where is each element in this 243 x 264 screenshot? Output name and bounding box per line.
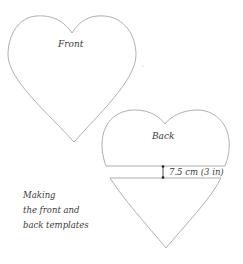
gap-dimension-marker <box>162 165 165 179</box>
front-label: Front <box>58 40 83 49</box>
back-label: Back <box>152 132 174 141</box>
caption: Making the front and back templates <box>23 188 89 233</box>
front-heart-outline <box>8 16 136 142</box>
caption-line: Making <box>23 188 89 203</box>
speck <box>142 65 143 66</box>
caption-line: the front and <box>23 203 89 218</box>
gap-dimension-label: 7.5 cm (3 in) <box>169 168 224 177</box>
caption-line: back templates <box>23 218 89 233</box>
back-heart-lower-outline <box>110 178 221 248</box>
